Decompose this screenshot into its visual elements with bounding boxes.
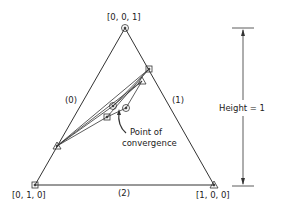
annotation-line-1: Point of bbox=[130, 128, 162, 137]
simplex-triangle bbox=[35, 28, 214, 185]
edge-label-left: (0) bbox=[65, 96, 77, 105]
edge-label-bottom: (2) bbox=[118, 189, 130, 198]
annotation-line-2: convergence bbox=[122, 139, 177, 148]
vertex-label-top: [0, 0, 1] bbox=[107, 13, 141, 22]
vertex-markers bbox=[32, 25, 218, 189]
vertex-label-bottom-left: [0, 1, 0] bbox=[12, 191, 46, 200]
height-label: Height = 1 bbox=[218, 104, 266, 113]
vertex-label-bottom-right: [1, 0, 0] bbox=[196, 191, 230, 200]
edge-label-right: (1) bbox=[172, 96, 184, 105]
convergence-arrow bbox=[119, 112, 126, 133]
